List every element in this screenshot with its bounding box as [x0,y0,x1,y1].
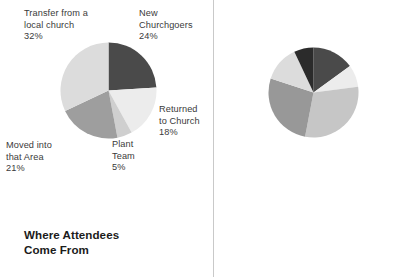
pie-slice-new-churchgoers[interactable] [109,43,157,91]
label-new-churchgoers: New Churchgoers 24% [139,8,211,43]
label-transfer-from-local-church: Transfer from a local church 32% [24,8,124,43]
chart-page: Transfer from a local church 32% New Chu… [0,0,413,277]
pie-chart-age-of-attendees [268,47,359,138]
pie-chart-where-attendees-come-from [60,42,157,139]
panel-where-attendees-come-from: Transfer from a local church 32% New Chu… [0,0,213,277]
label-moved-into-that-area: Moved into that Area 21% [6,140,90,175]
panel-age-of-attendees: 65+ 7% 45-64 13% 0-10 15% 11-17 8% 30-44… [214,0,413,277]
label-returned-to-church: Returned to Church 18% [159,104,221,139]
caption-where-attendees-come-from: Where Attendees Come From [24,228,194,257]
label-plant-team: Plant Team 5% [112,139,156,174]
